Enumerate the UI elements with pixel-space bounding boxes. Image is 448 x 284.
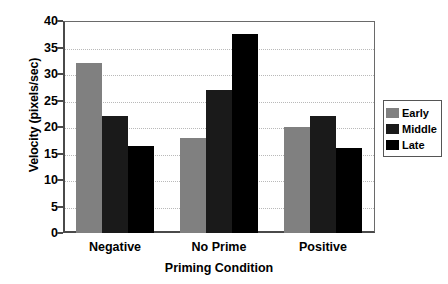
x-tick-label: No Prime xyxy=(159,240,279,254)
bar-chart: Velocity (pixels/sec) 0510152025303540 N… xyxy=(0,0,448,284)
legend-label: Middle xyxy=(402,123,437,135)
bar-groups xyxy=(63,21,375,233)
bar-negative-late xyxy=(128,146,154,233)
x-tick-label: Positive xyxy=(263,240,383,254)
bar-no-prime-middle xyxy=(206,90,232,233)
bar-group xyxy=(167,21,271,233)
legend-swatch-icon xyxy=(386,108,399,118)
bar-no-prime-early xyxy=(180,138,206,233)
x-axis-title: Priming Condition xyxy=(63,261,375,275)
bar-negative-middle xyxy=(102,116,128,233)
y-tick-label: 20 xyxy=(18,120,58,134)
legend-item-early: Early xyxy=(386,105,438,120)
x-tick-label: Negative xyxy=(55,240,175,254)
legend-item-late: Late xyxy=(386,137,438,152)
bar-group xyxy=(63,21,167,233)
bar-positive-early xyxy=(284,127,310,233)
y-tick-label: 15 xyxy=(18,147,58,161)
legend-swatch-icon xyxy=(386,124,399,134)
bar-negative-early xyxy=(76,63,102,233)
legend-label: Late xyxy=(402,139,425,151)
y-tick-label: 0 xyxy=(18,226,58,240)
y-tick-label: 30 xyxy=(18,67,58,81)
y-tick-label: 10 xyxy=(18,173,58,187)
legend-swatch-icon xyxy=(386,140,399,150)
bar-no-prime-late xyxy=(232,34,258,233)
bar-positive-middle xyxy=(310,116,336,233)
legend: EarlyMiddleLate xyxy=(383,100,442,157)
bar-positive-late xyxy=(336,148,362,233)
y-tick-label: 25 xyxy=(18,94,58,108)
bar-group xyxy=(271,21,375,233)
legend-label: Early xyxy=(402,107,429,119)
y-tick-label: 5 xyxy=(18,200,58,214)
legend-item-middle: Middle xyxy=(386,121,438,136)
y-tick-label: 35 xyxy=(18,41,58,55)
y-tick-label: 40 xyxy=(18,14,58,28)
